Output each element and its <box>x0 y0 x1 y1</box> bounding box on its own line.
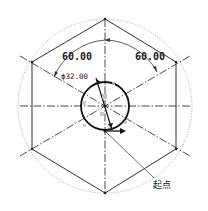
angle-label-right: 60.00 <box>135 51 165 62</box>
diameter-dimension-line <box>96 78 112 130</box>
angle-label-left: 60.00 <box>62 51 92 62</box>
start-point-label: 起点 <box>153 180 171 190</box>
diameter-label: ϕ32.00 <box>61 72 89 81</box>
start-arrowhead <box>120 128 126 134</box>
center-lines <box>20 19 192 193</box>
start-leader-line <box>105 131 154 178</box>
cad-drawing: 60.00 60.00 ϕ32.00 起点 <box>0 0 208 211</box>
